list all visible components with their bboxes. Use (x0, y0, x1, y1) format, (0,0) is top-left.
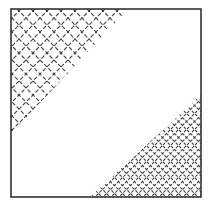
hatch-line (56, 95, 210, 209)
hatch-line (0, 95, 93, 209)
hatch-line (0, 95, 125, 209)
hatch-line (136, 95, 210, 209)
hatch-line (0, 9, 119, 209)
hatch-line (0, 95, 157, 209)
hatch-line (0, 95, 37, 209)
hatch-line (0, 9, 49, 209)
hatch-line (24, 95, 210, 209)
hatch-line (0, 95, 141, 209)
hatch-line (0, 95, 53, 209)
hatch-line (16, 95, 210, 209)
hatch-line (56, 95, 210, 209)
hatch-line (0, 95, 5, 209)
hatch-line (157, 9, 210, 209)
hatch-line (0, 95, 93, 209)
hatch-line (0, 95, 125, 209)
hatch-line (72, 95, 210, 209)
hatch-line (0, 9, 7, 209)
bottom-right-hatch-region (0, 95, 210, 209)
hatch-line (0, 9, 91, 209)
hatch-line (0, 95, 205, 209)
hatch-line (0, 95, 29, 209)
hatch-line (0, 95, 53, 209)
hatch-line (104, 95, 210, 209)
top-left-hatch-region (0, 9, 210, 209)
hatch-line (104, 95, 210, 209)
hatch-line (0, 9, 119, 209)
hatch-line (0, 9, 210, 209)
hatch-line (0, 95, 181, 209)
hatch-line (0, 9, 35, 209)
hatch-line (208, 95, 210, 209)
hatch-line (0, 95, 205, 209)
hatch-line (0, 9, 63, 209)
hatch-line (0, 95, 5, 209)
hatch-line (0, 95, 29, 209)
hatch-line (0, 95, 173, 209)
hatch-line (0, 95, 157, 209)
hatch-line (208, 95, 210, 209)
hatch-line (88, 95, 210, 209)
hatched-square-diagram (0, 0, 210, 209)
hatch-line (0, 9, 7, 209)
hatch-line (0, 9, 91, 209)
hatch-line (0, 9, 210, 209)
hatch-line (72, 95, 210, 209)
hatch-line (3, 9, 210, 209)
hatch-line (0, 9, 49, 209)
hatch-line (3, 9, 210, 209)
hatch-line (0, 95, 85, 209)
hatch-line (0, 95, 85, 209)
hatch-line (0, 9, 210, 209)
hatch-line (88, 95, 210, 209)
hatch-line (0, 9, 147, 209)
hatch-line (157, 9, 210, 209)
hatch-line (0, 9, 210, 209)
hatch-line (0, 95, 141, 209)
hatch-line (0, 95, 37, 209)
hatch-line (168, 95, 210, 209)
hatch-line (168, 95, 210, 209)
hatch-line (0, 9, 147, 209)
hatch-line (0, 9, 35, 209)
hatch-line (0, 95, 173, 209)
hatch-line (136, 95, 210, 209)
hatch-line (0, 95, 181, 209)
hatch-line (0, 9, 63, 209)
hatch-line (24, 95, 210, 209)
